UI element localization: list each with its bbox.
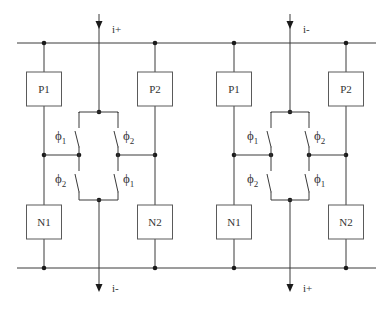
bottom-rail-node bbox=[344, 266, 349, 271]
p1-block-label: P1 bbox=[228, 83, 240, 95]
top-rail-node bbox=[153, 41, 158, 46]
top-rail-node bbox=[42, 41, 47, 46]
phase-label-upper-right-subscript: 2 bbox=[321, 136, 326, 146]
switch-lower-left-contact bbox=[78, 191, 80, 193]
n1-block-label: N1 bbox=[227, 216, 240, 228]
bottom-rail-node bbox=[153, 266, 158, 271]
p1-block-label: P1 bbox=[38, 83, 50, 95]
phase-label-upper-right: ϕ2 bbox=[314, 128, 325, 146]
phase-label-lower-left-subscript: 2 bbox=[62, 179, 67, 189]
switch-upper-left-blade bbox=[267, 131, 271, 147]
phase-label-lower-right-subscript: 1 bbox=[321, 179, 326, 189]
bottom-rail-node bbox=[232, 266, 237, 271]
switch-lower-right-contact bbox=[308, 191, 310, 193]
phase-label-lower-left: ϕ2 bbox=[55, 171, 66, 189]
switch-upper-right-contact bbox=[308, 146, 310, 148]
top-rail-node bbox=[232, 41, 237, 46]
phase-label-upper-left-subscript: 1 bbox=[62, 136, 67, 146]
phase-label-upper-left: ϕ1 bbox=[247, 128, 258, 146]
switch-upper-right-blade bbox=[305, 131, 309, 147]
phase-label-upper-left: ϕ1 bbox=[55, 128, 66, 146]
phase-label-lower-right: ϕ1 bbox=[314, 171, 325, 189]
switch-upper-right-contact bbox=[117, 146, 119, 148]
current-arrow-down-icon bbox=[287, 284, 294, 292]
switch-lower-right-blade bbox=[305, 174, 309, 192]
current-arrow-down-icon bbox=[96, 21, 103, 29]
p2-block-label: P2 bbox=[340, 83, 352, 95]
bottom-current-label: i- bbox=[112, 282, 119, 294]
p2-block-label: P2 bbox=[149, 83, 161, 95]
switch-upper-left-blade bbox=[75, 131, 79, 147]
switch-upper-left-contact bbox=[270, 146, 272, 148]
chopper-circuit-diagram: P1P2N1N2i+i-ϕ1ϕ2ϕ2ϕ1 P1P2N1N2i-i+ϕ1ϕ2ϕ2ϕ… bbox=[0, 0, 389, 317]
phase-label-upper-right-subscript: 2 bbox=[130, 136, 135, 146]
phase-label-upper-right: ϕ2 bbox=[123, 128, 134, 146]
switch-upper-right-blade bbox=[114, 131, 118, 147]
top-rail-node bbox=[344, 41, 349, 46]
n2-block-label: N2 bbox=[148, 216, 161, 228]
switch-upper-left-contact bbox=[78, 146, 80, 148]
switch-lower-left-blade bbox=[75, 174, 79, 192]
n1-block-label: N1 bbox=[37, 216, 50, 228]
phase-label-lower-right: ϕ1 bbox=[123, 171, 134, 189]
switch-lower-right-contact bbox=[117, 191, 119, 193]
cell-left: P1P2N1N2i+i-ϕ1ϕ2ϕ2ϕ1 bbox=[27, 14, 173, 294]
current-arrow-down-icon bbox=[287, 21, 294, 29]
bottom-current-label: i+ bbox=[303, 282, 312, 294]
top-current-label: i+ bbox=[112, 23, 121, 35]
phase-label-lower-right-subscript: 1 bbox=[130, 179, 135, 189]
switch-lower-left-blade bbox=[267, 174, 271, 192]
phase-label-upper-left-subscript: 1 bbox=[254, 136, 259, 146]
current-arrow-down-icon bbox=[96, 284, 103, 292]
bottom-rail-node bbox=[42, 266, 47, 271]
cell-right: P1P2N1N2i-i+ϕ1ϕ2ϕ2ϕ1 bbox=[217, 14, 364, 294]
switch-lower-left-contact bbox=[270, 191, 272, 193]
top-current-label: i- bbox=[303, 23, 310, 35]
phase-label-lower-left: ϕ2 bbox=[247, 171, 258, 189]
n2-block-label: N2 bbox=[339, 216, 352, 228]
switch-lower-right-blade bbox=[114, 174, 118, 192]
phase-label-lower-left-subscript: 2 bbox=[254, 179, 259, 189]
